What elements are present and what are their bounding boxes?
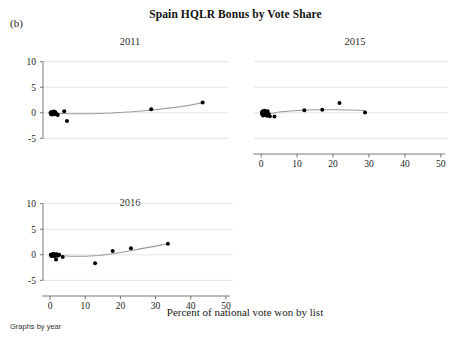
data-point <box>56 113 60 117</box>
data-point <box>111 249 115 253</box>
data-point <box>57 253 61 257</box>
data-point <box>201 101 205 105</box>
x-tick-label: 20 <box>328 159 338 169</box>
x-tick-label: 40 <box>400 159 410 169</box>
data-point <box>363 111 367 115</box>
y-tick-label: 10 <box>27 199 37 209</box>
data-point <box>61 255 65 259</box>
x-tick-label: 10 <box>292 159 302 169</box>
figure-footnote: Graphs by year <box>10 322 61 331</box>
fit-line <box>57 103 204 114</box>
data-point <box>268 114 272 118</box>
data-point <box>272 115 276 119</box>
scatter-plot-svg: -5051001020304050-5051001020304050 <box>0 0 471 347</box>
data-point <box>54 257 58 261</box>
y-tick-label: 10 <box>27 57 37 67</box>
data-point <box>338 101 342 105</box>
figure-container: (b) Spain HQLR Bonus by Vote Share 2011 … <box>0 0 471 347</box>
x-tick-label: 50 <box>436 159 446 169</box>
panel-2011: -50510 <box>27 57 229 144</box>
fit-line <box>267 110 366 115</box>
data-point <box>166 242 170 246</box>
panel-2015: 01020304050 <box>253 62 448 169</box>
data-point <box>62 109 66 113</box>
data-point <box>65 119 69 123</box>
panel-2016: -5051001020304050 <box>27 199 234 311</box>
y-tick-label: 0 <box>31 108 36 118</box>
data-point <box>129 246 133 250</box>
y-tick-label: 5 <box>31 225 36 235</box>
x-tick-label: 0 <box>48 301 53 311</box>
data-point <box>149 107 153 111</box>
x-tick-label: 0 <box>259 159 264 169</box>
y-tick-label: -5 <box>28 276 36 286</box>
data-point <box>320 108 324 112</box>
x-tick-label: 30 <box>364 159 374 169</box>
y-tick-label: 0 <box>31 250 36 260</box>
y-tick-label: -5 <box>28 134 36 144</box>
data-point <box>93 261 97 265</box>
y-tick-label: 5 <box>31 83 36 93</box>
data-point <box>302 108 306 112</box>
x-axis-title: Percent of national vote won by list <box>80 306 410 318</box>
